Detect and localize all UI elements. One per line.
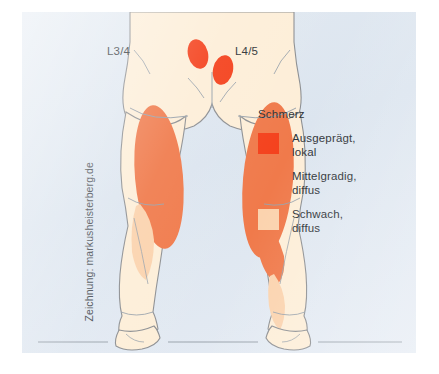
legend-item-moderate: Mittelgradig, diffus (258, 170, 403, 197)
legend-item-line1: Mittelgradig, (292, 170, 357, 182)
legend-item-weak: Schwach, diffus (258, 208, 403, 235)
legend-item-pronounced: Ausgeprägt, lokal (258, 132, 403, 159)
severity-swatch-icon (258, 209, 279, 230)
pain-distribution-figure: L3/4 L4/5 Zeichnung: markusheisterberg.d… (0, 0, 439, 374)
legend-item-label: Mittelgradig, diffus (292, 170, 357, 197)
legend-item-line1: Ausgeprägt, (292, 132, 356, 144)
legend: Schmerz Ausgeprägt, lokal Mittelgradig, … (258, 108, 403, 246)
severity-swatch-icon (258, 171, 279, 192)
legend-item-line1: Schwach, (292, 208, 343, 220)
artist-credit: Zeichnung: markusheisterberg.de (83, 162, 95, 322)
severity-swatch-icon (258, 133, 279, 154)
vertebra-label-right: L4/5 (235, 45, 258, 57)
vertebra-label-left: L3/4 (107, 45, 130, 57)
legend-item-label: Schwach, diffus (292, 208, 343, 235)
legend-item-label: Ausgeprägt, lokal (292, 132, 356, 159)
legend-item-line2: lokal (292, 146, 356, 160)
legend-title: Schmerz (258, 108, 403, 120)
legend-item-line2: diffus (292, 184, 357, 198)
illustration-panel: L3/4 L4/5 Zeichnung: markusheisterberg.d… (22, 12, 416, 353)
legend-item-line2: diffus (292, 222, 343, 236)
